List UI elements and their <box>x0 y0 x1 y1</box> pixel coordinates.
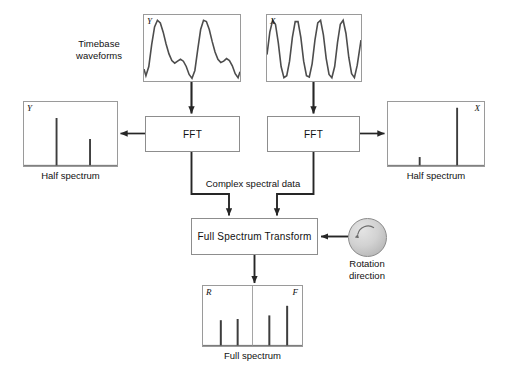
axis-letter-full-spectrum-forward: F <box>293 287 299 297</box>
waveform-y-trace <box>144 15 240 81</box>
fft-right-box[interactable]: FFT <box>267 116 360 152</box>
half-spectrum-y-bars <box>24 102 117 166</box>
plot-timebase-waveform-x: X <box>266 14 362 82</box>
caption-half-spectrum-right: Half spectrum <box>387 170 485 182</box>
plot-timebase-waveform-y: Y <box>143 14 241 82</box>
plot-half-spectrum-x: X <box>387 101 485 167</box>
full-spectrum-transform-label: Full Spectrum Transform <box>197 231 311 242</box>
fft-left-box[interactable]: FFT <box>145 116 240 152</box>
full-spectrum-transform-box[interactable]: Full Spectrum Transform <box>191 218 318 255</box>
caption-full-spectrum: Full spectrum <box>202 350 303 362</box>
rotation-direction-sphere <box>348 218 387 257</box>
axis-letter-waveform-y: Y <box>147 16 152 26</box>
axis-letter-waveform-x: X <box>270 16 276 26</box>
caption-half-spectrum-left: Half spectrum <box>23 170 118 182</box>
axis-letter-full-spectrum-reverse: R <box>206 287 212 297</box>
caption-timebase-waveforms: Timebase waveforms <box>55 38 143 62</box>
fft-right-label: FFT <box>304 129 323 140</box>
full-spectrum-bars <box>203 286 302 346</box>
caption-rotation-direction: Rotation direction <box>336 258 398 282</box>
waveform-x-trace <box>267 15 361 81</box>
axis-letter-half-spectrum-x: X <box>475 103 481 113</box>
rotation-arrow-icon <box>349 219 386 256</box>
fft-left-label: FFT <box>183 129 202 140</box>
half-spectrum-x-bars <box>388 102 484 166</box>
plot-half-spectrum-y: Y <box>23 101 118 167</box>
axis-letter-half-spectrum-y: Y <box>27 103 32 113</box>
caption-complex-spectral-data: Complex spectral data <box>195 178 311 190</box>
plot-full-spectrum: R F <box>202 285 303 347</box>
diagram-canvas: Y X Timebase waveforms Y Half spectrum X… <box>0 0 505 376</box>
